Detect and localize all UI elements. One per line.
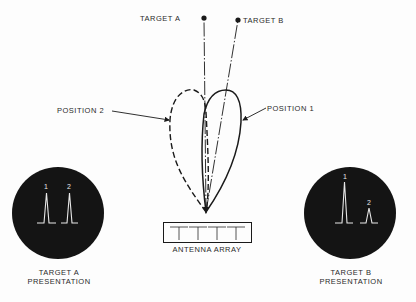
position-2-leader — [112, 111, 169, 120]
position-1-leader — [243, 108, 266, 120]
target-a-presentation-line1: TARGET A — [27, 268, 90, 277]
diagram-canvas: TARGET A TARGET B POSITION 2 POSITION 1 … — [0, 0, 416, 302]
scope-target-b — [304, 167, 396, 259]
target-b-presentation-line1: TARGET B — [319, 268, 382, 277]
antenna-array-label: ANTENNA ARRAY — [173, 245, 242, 254]
target-a-presentation-title: TARGET A PRESENTATION — [27, 268, 90, 286]
target-b-presentation-title: TARGET B PRESENTATION — [319, 268, 382, 286]
scope-b-pulse-2-number: 2 — [367, 198, 371, 207]
scope-a-pulse-1-number: 1 — [44, 182, 48, 191]
target-a-label: TARGET A — [140, 14, 180, 23]
scope-target-a — [12, 167, 104, 259]
diagram-graphics — [0, 0, 416, 302]
scope-b-pulse-1-number: 1 — [343, 172, 347, 181]
antenna-array — [164, 223, 252, 243]
target-a-presentation-line2: PRESENTATION — [27, 277, 90, 286]
position-1-label: POSITION 1 — [267, 104, 314, 113]
target-a-dot — [201, 15, 206, 20]
target-b-presentation-line2: PRESENTATION — [319, 277, 382, 286]
target-b-dot — [235, 17, 240, 22]
position-2-label: POSITION 2 — [57, 106, 104, 115]
scope-a-pulse-2-number: 2 — [67, 182, 71, 191]
target-b-label: TARGET B — [243, 16, 284, 25]
